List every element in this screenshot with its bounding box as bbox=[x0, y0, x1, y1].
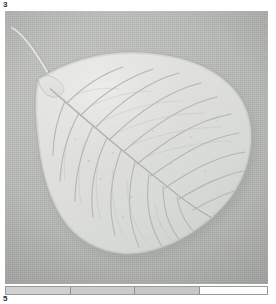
scale-segment-4 bbox=[200, 287, 267, 294]
scale-segment-2 bbox=[71, 287, 134, 294]
tonal-scale-bar bbox=[5, 286, 268, 295]
plate-number-top: 3 bbox=[3, 1, 7, 9]
scale-segment-3 bbox=[135, 287, 201, 294]
photo-alt-text: grayscale photograph of a single broad o… bbox=[0, 0, 1, 1]
scale-segment-1 bbox=[6, 287, 71, 294]
plate-number-bottom: 5 bbox=[3, 295, 7, 303]
photo-vignette bbox=[5, 11, 268, 284]
figure-plate: 3 bbox=[0, 0, 276, 304]
specimen-photograph bbox=[5, 11, 268, 284]
